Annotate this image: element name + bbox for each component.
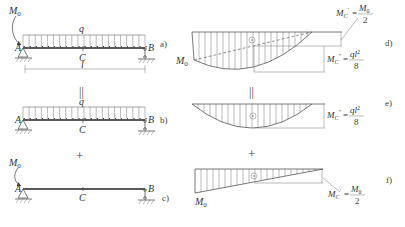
panel-label-d: d)	[385, 38, 393, 48]
svg-text:M0: M0	[358, 3, 370, 14]
moment-diagram-f: M0 MC′ = M0 2 f)	[194, 169, 392, 209]
load-label-b: q	[79, 96, 84, 107]
hatch-e	[198, 104, 306, 128]
beam-b: q A B C b)	[14, 96, 168, 135]
annotation-mc-double-prime-e: MC″ = ql2 8	[326, 105, 364, 127]
svg-text:=: =	[343, 110, 348, 120]
panel-label-b: b)	[160, 115, 168, 125]
svg-text:ql2: ql2	[350, 105, 360, 115]
svg-text:2: 2	[363, 15, 368, 25]
svg-text:MC′: MC′	[335, 7, 350, 19]
annotation-mc-prime-d: MC′ = M0 2	[335, 3, 373, 25]
panel-label-c: c)	[162, 193, 169, 203]
panel-label-e: e)	[385, 98, 392, 108]
svg-text:=: =	[344, 189, 349, 199]
svg-text:l: l	[81, 59, 84, 70]
distributed-load-b	[23, 107, 145, 119]
moment-label-c: M0	[8, 157, 21, 170]
svg-text:=: =	[343, 54, 348, 64]
svg-text:ql2: ql2	[350, 49, 360, 59]
distributed-load-a	[23, 35, 145, 47]
annotation-mc-prime-f: MC′ = M0 2	[327, 184, 365, 206]
end-moment-label-d: M0	[175, 55, 188, 68]
superposition-diagram: M0 q A B C l a) || q A B	[0, 0, 405, 227]
moment-label-a: M0	[8, 5, 21, 18]
support-b-label-b: B	[148, 114, 154, 125]
support-b-label-c: B	[148, 183, 154, 194]
moment-arrow-a	[12, 16, 21, 45]
svg-text:MC″: MC″	[326, 109, 342, 121]
plus-operator-left: +	[76, 148, 83, 163]
svg-text:MC′: MC′	[327, 188, 342, 200]
svg-text:8: 8	[354, 61, 359, 71]
svg-text:M0: M0	[350, 184, 362, 195]
beam-c: M0 A B C c)	[8, 157, 169, 204]
hatch-d	[199, 32, 307, 69]
annotation-mc-double-prime-d: MC″ = ql2 8	[326, 49, 364, 71]
load-label-a: q	[79, 23, 84, 34]
panel-label-a: a)	[160, 39, 167, 49]
svg-text:MC″: MC″	[326, 53, 342, 65]
end-moment-label-f: M0	[194, 196, 207, 209]
panel-label-f: f)	[386, 175, 392, 185]
support-a-label-b: A	[14, 114, 22, 125]
support-a-label-c: A	[14, 183, 22, 194]
svg-text:8: 8	[354, 117, 359, 127]
support-a-label: A	[14, 42, 22, 53]
midpoint-c-label-c: C	[79, 192, 86, 203]
svg-text:=: =	[352, 8, 357, 18]
svg-text:2: 2	[355, 196, 360, 206]
support-b-label: B	[148, 42, 154, 53]
plus-operator-right: +	[248, 146, 255, 161]
equals-operator-right: ||	[249, 85, 254, 99]
midpoint-c-label-b: C	[79, 124, 86, 135]
moment-diagram-e: MC″ = ql2 8 e)	[192, 98, 392, 128]
beam-a: M0 q A B C l a)	[8, 5, 167, 73]
moment-diagram-d: M0 MC′ = M0 2 MC″ = ql2 8 d)	[175, 3, 393, 72]
